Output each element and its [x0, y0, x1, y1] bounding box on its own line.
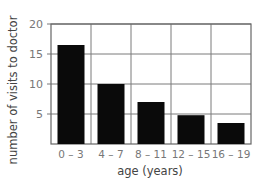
y-axis-label: number of visits to doctor [6, 16, 20, 165]
x-tick-label: 16 – 19 [212, 148, 251, 160]
bar-4 [218, 123, 245, 144]
x-tick-label: 0 – 3 [58, 148, 83, 160]
y-tick-label: 20 [29, 18, 43, 31]
bar-chart: 51015200 – 34 – 78 – 1112 – 1516 – 19 nu… [0, 0, 272, 186]
x-tick-label: 4 – 7 [98, 148, 123, 160]
y-tick-label: 5 [36, 108, 43, 121]
x-tick-label: 12 – 15 [172, 148, 211, 160]
x-axis-label: age (years) [50, 164, 250, 178]
bar-2 [138, 102, 165, 144]
bar-1 [98, 84, 125, 144]
plot-area: 51015200 – 34 – 78 – 1112 – 1516 – 19 [0, 0, 272, 186]
x-tick-label: 8 – 11 [135, 148, 167, 160]
bar-3 [178, 115, 205, 144]
bar-0 [58, 45, 85, 144]
y-tick-label: 10 [29, 78, 43, 91]
y-tick-label: 15 [29, 48, 43, 61]
y-axis-label-container: number of visits to doctor [2, 20, 24, 160]
